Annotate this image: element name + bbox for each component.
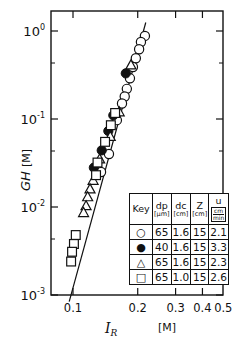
- x-tick-label: 0.4: [193, 301, 211, 315]
- u-unit-box: cmmin: [211, 207, 226, 223]
- y-tick-label: 10-1: [20, 111, 45, 127]
- key-row-open-circle: ○ 65 1.6 15 2.1: [130, 225, 229, 240]
- u-unit-den: min: [213, 215, 224, 221]
- y-tick-label: 100: [23, 23, 45, 39]
- open-square-marker: [93, 158, 102, 167]
- y-tick-label: 10-3: [20, 287, 45, 303]
- open-circle-marker: [135, 45, 144, 54]
- key-row-open-triangle: △ 65 1.6 15 2.3: [130, 255, 229, 270]
- key-cell-dc: 1.6: [171, 240, 191, 255]
- open-square-marker: [68, 247, 77, 256]
- u-unit: cmmin: [210, 207, 227, 223]
- key-cell-u: 3.3: [209, 240, 229, 255]
- x-tick-label: 0.2: [129, 301, 147, 315]
- open-square-icon: □: [130, 270, 153, 285]
- open-square-marker: [92, 171, 101, 180]
- key-header-dc: dc[cm]: [171, 194, 191, 225]
- key-cell-z: 15: [191, 240, 209, 255]
- key-cell-z: 15: [191, 255, 209, 270]
- dp-unit: [µm]: [154, 211, 170, 218]
- key-cell-dp: 40: [153, 240, 172, 255]
- z-unit: [cm]: [192, 211, 207, 218]
- dc-unit: [cm]: [173, 211, 190, 218]
- key-cell-u: 2.6: [209, 270, 229, 285]
- z-label: Z: [196, 200, 203, 211]
- y-axis-title: GH [M]: [18, 149, 33, 191]
- key-row-open-square: □ 65 1.0 15 2.6: [130, 270, 229, 285]
- key-cell-z: 15: [191, 270, 209, 285]
- y-tick-label: 10-2: [20, 199, 45, 215]
- key-row-filled-circle: ● 40 1.6 15 3.3: [130, 240, 229, 255]
- open-square-marker: [111, 109, 120, 118]
- key-cell-z: 15: [191, 225, 209, 240]
- open-square-marker: [101, 137, 110, 146]
- open-triangle-icon: △: [130, 255, 153, 270]
- key-cell-u: 2.1: [209, 225, 229, 240]
- filled-circle-icon: ●: [130, 240, 153, 255]
- chart: 10010-110-210-3 0.10.20.30.40.5 GH [M]IR…: [0, 0, 245, 340]
- filled-circle-marker: [121, 69, 130, 78]
- x-axis-title: IR: [104, 320, 118, 338]
- key-cell-dp: 65: [153, 270, 172, 285]
- key-header-row: Key dp[µm] dc[cm] Z[cm] ucmmin: [130, 194, 229, 225]
- key-header-key: Key: [130, 194, 153, 225]
- key-cell-dp: 65: [153, 225, 172, 240]
- open-square-marker: [106, 121, 115, 130]
- key-header-u: ucmmin: [209, 194, 229, 225]
- key-cell-dc: 1.0: [171, 270, 191, 285]
- u-label: u: [216, 195, 222, 206]
- x-tick-label: 0.5: [214, 301, 232, 315]
- u-unit-fraction: cmmin: [213, 208, 224, 221]
- x-tick-label: 0.3: [166, 301, 184, 315]
- open-square-marker: [67, 257, 76, 266]
- key-cell-dc: 1.6: [171, 255, 191, 270]
- x-tick-label: 0.1: [64, 301, 82, 315]
- filled-circle-marker: [97, 146, 106, 155]
- open-circle-icon: ○: [130, 225, 153, 240]
- dp-label: dp: [156, 200, 168, 211]
- legend-key-table: Key dp[µm] dc[cm] Z[cm] ucmmin ○ 65 1.6 …: [129, 193, 229, 285]
- x-axis-unit: [M]: [158, 321, 176, 334]
- key-cell-u: 2.3: [209, 255, 229, 270]
- x-tick-labels: 0.10.20.30.40.5: [64, 301, 233, 315]
- key-header-dp: dp[µm]: [153, 194, 172, 225]
- open-triangle-marker: [85, 184, 95, 193]
- key-header-z: Z[cm]: [191, 194, 209, 225]
- key-cell-dp: 65: [153, 255, 172, 270]
- key-cell-dc: 1.6: [171, 225, 191, 240]
- dc-label: dc: [175, 200, 186, 211]
- open-square-marker: [71, 231, 80, 240]
- open-circle-marker: [131, 54, 140, 63]
